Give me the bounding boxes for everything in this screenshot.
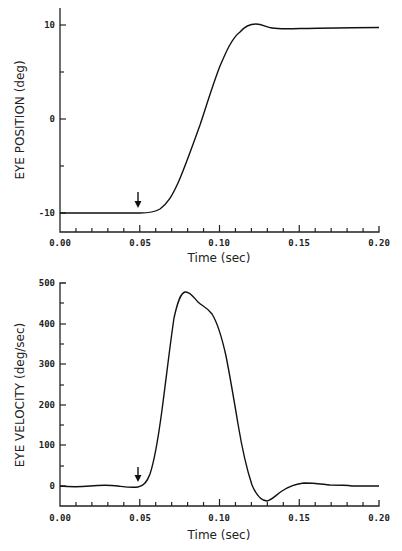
onset-arrow-icon [135,467,142,482]
y-tick-label: 0 [50,114,55,124]
position-x-ticks [76,225,363,232]
x-tick-label: 0.05 [129,513,151,523]
velocity-axes [60,283,379,506]
velocity-curve [60,292,379,501]
velocity-plot: 500 400 300 200 100 0 0.00 0.05 0.10 0.1… [13,278,390,542]
y-tick-label: -10 [39,208,55,218]
figure: 10 0 -10 0.00 0.05 0.10 0.15 0.20 Time (… [0,0,402,551]
velocity-x-ticks [76,499,363,506]
x-tick-label: 0.15 [288,513,310,523]
x-tick-label: 0.00 [49,513,71,523]
x-axis-label: Time (sec) [187,251,251,265]
position-curve [60,24,379,213]
y-tick-label: 200 [39,400,55,410]
velocity-y-ticks [60,303,66,486]
x-tick-label: 0.00 [49,238,71,248]
y-tick-label: 10 [44,20,55,30]
onset-arrow-icon [135,192,142,208]
y-axis-label: EYE POSITION (deg) [13,60,27,179]
y-tick-label: 300 [39,359,55,369]
x-tick-label: 0.20 [368,238,390,248]
x-axis-label: Time (sec) [187,528,251,542]
x-tick-label: 0.15 [288,238,310,248]
position-plot: 10 0 -10 0.00 0.05 0.10 0.15 0.20 Time (… [13,8,390,265]
position-y-ticks [60,25,66,213]
y-tick-label: 0 [50,481,55,491]
y-tick-label: 500 [39,278,55,288]
x-tick-label: 0.10 [208,513,230,523]
position-axes [60,8,379,232]
y-tick-label: 100 [39,440,55,450]
x-tick-label: 0.20 [368,513,390,523]
x-tick-label: 0.10 [208,238,230,248]
x-tick-label: 0.05 [129,238,151,248]
y-axis-label: EYE VELOCITY (deg/sec) [13,323,27,467]
y-tick-label: 400 [39,319,55,329]
